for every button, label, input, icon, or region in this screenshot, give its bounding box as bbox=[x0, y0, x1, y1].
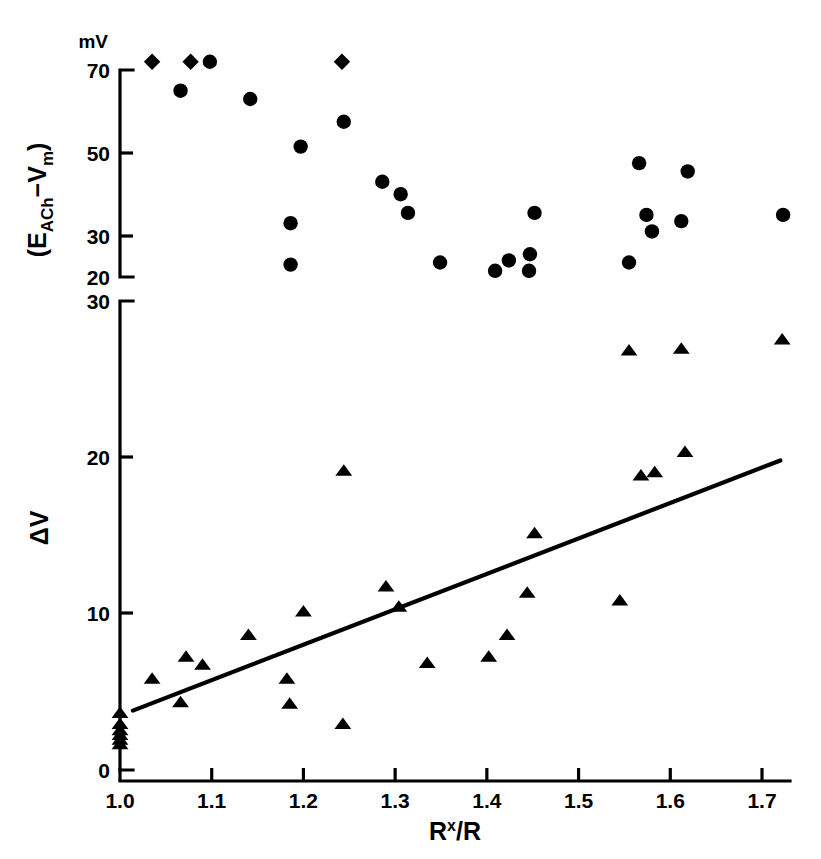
data-point-triangle bbox=[295, 605, 312, 617]
upper-y-title-sub2: m bbox=[38, 151, 57, 166]
upper-y-ticklabel-70: 70 bbox=[87, 59, 110, 82]
data-point-triangle bbox=[633, 469, 650, 481]
data-point-circle bbox=[375, 175, 389, 189]
data-point-triangle bbox=[774, 333, 791, 345]
data-point-circle bbox=[293, 139, 307, 153]
data-point-circle bbox=[283, 216, 297, 230]
x-axis-ticklabel-1.2: 1.2 bbox=[289, 789, 318, 812]
data-point-circle bbox=[337, 115, 351, 129]
data-point-circle bbox=[622, 255, 636, 269]
lower-y-ticklabel-10: 10 bbox=[87, 602, 110, 625]
data-point-circle bbox=[203, 55, 217, 69]
lower-y-ticklabel-30: 30 bbox=[87, 290, 110, 313]
x-axis-ticklabel-1.5: 1.5 bbox=[564, 789, 594, 812]
x-axis-ticklabel-1.3: 1.3 bbox=[381, 789, 410, 812]
upper-y-title-close: ) bbox=[23, 143, 51, 151]
upper-y-title-sub1: ACh bbox=[38, 197, 57, 232]
lower-y-axis-title: ΔV bbox=[25, 510, 53, 545]
lower-y-axis-spine bbox=[120, 301, 133, 770]
data-point-circle bbox=[523, 247, 537, 261]
upper-y-axis-title: (EACh−Vm) bbox=[23, 143, 57, 258]
data-point-triangle bbox=[499, 628, 516, 640]
upper-y-title-minus: −V bbox=[23, 166, 51, 198]
x-axis-ticklabels: 1.01.11.21.31.41.51.61.7 bbox=[105, 789, 776, 812]
lower-y-ticklabel-20: 20 bbox=[87, 446, 110, 469]
x-axis-title-sup: x bbox=[447, 817, 456, 834]
svg-text:(EACh−Vm): (EACh−Vm) bbox=[23, 143, 57, 258]
data-point-triangle bbox=[279, 672, 296, 684]
lower-panel: 30 20 10 0 ΔV 1.01.11.21.31.41.51.61.7 R… bbox=[25, 290, 791, 845]
data-point-diamond bbox=[144, 54, 160, 70]
data-point-triangle bbox=[519, 586, 536, 598]
data-point-triangle bbox=[178, 650, 195, 662]
x-axis-ticklabel-1.0: 1.0 bbox=[105, 789, 134, 812]
upper-y-unit-label: mV bbox=[78, 31, 108, 52]
data-point-triangle bbox=[335, 464, 352, 476]
data-point-circle bbox=[173, 84, 187, 98]
data-point-circle bbox=[401, 206, 415, 220]
data-point-triangle bbox=[677, 446, 694, 458]
data-point-triangle bbox=[621, 344, 638, 356]
x-axis-ticklabel-1.1: 1.1 bbox=[197, 789, 227, 812]
upper-y-axis-spine bbox=[120, 70, 133, 277]
data-point-triangle bbox=[378, 580, 395, 592]
x-axis-title-main: R bbox=[429, 817, 447, 845]
data-point-diamond bbox=[182, 54, 198, 70]
x-axis-ticks bbox=[120, 768, 762, 781]
upper-y-ticklabel-30: 30 bbox=[87, 225, 110, 248]
data-point-triangle bbox=[144, 672, 161, 684]
x-axis-ticklabel-1.7: 1.7 bbox=[747, 789, 776, 812]
data-point-triangle bbox=[334, 718, 351, 730]
data-point-triangle bbox=[673, 342, 690, 354]
x-axis-title: Rx/R bbox=[429, 817, 481, 845]
upper-y-ticklabel-50: 50 bbox=[87, 142, 110, 165]
data-point-triangle bbox=[611, 594, 628, 606]
data-point-circle bbox=[433, 255, 447, 269]
upper-y-ticklabel-20: 20 bbox=[87, 266, 110, 289]
data-point-diamond bbox=[334, 54, 350, 70]
data-point-triangle bbox=[172, 696, 189, 708]
data-point-triangle bbox=[281, 697, 298, 709]
upper-data-markers bbox=[144, 54, 790, 278]
data-point-circle bbox=[243, 92, 257, 106]
data-point-triangle bbox=[240, 628, 257, 640]
upper-panel: 70 50 30 20 mV (EACh−Vm) bbox=[23, 31, 790, 289]
data-point-circle bbox=[674, 214, 688, 228]
data-point-circle bbox=[488, 264, 502, 278]
x-axis-ticklabel-1.4: 1.4 bbox=[472, 789, 502, 812]
data-point-circle bbox=[522, 264, 536, 278]
data-point-circle bbox=[776, 208, 790, 222]
scatter-plot: 70 50 30 20 mV (EACh−Vm) 30 20 10 0 bbox=[0, 0, 821, 859]
data-point-circle bbox=[527, 206, 541, 220]
data-point-triangle bbox=[526, 527, 543, 539]
data-point-circle bbox=[632, 156, 646, 170]
data-point-circle bbox=[393, 187, 407, 201]
lower-data-markers bbox=[112, 333, 791, 749]
data-point-triangle bbox=[419, 657, 436, 669]
lower-y-ticklabel-0: 0 bbox=[98, 759, 110, 782]
data-point-triangle bbox=[112, 707, 129, 719]
data-point-circle bbox=[502, 253, 516, 267]
figure-container: 70 50 30 20 mV (EACh−Vm) 30 20 10 0 bbox=[0, 0, 821, 859]
data-point-circle bbox=[283, 257, 297, 271]
data-point-circle bbox=[681, 164, 695, 178]
data-point-triangle bbox=[646, 466, 663, 478]
regression-line bbox=[133, 460, 781, 710]
lower-y-axis-title-text: ΔV bbox=[25, 510, 53, 545]
data-point-circle bbox=[639, 208, 653, 222]
upper-y-title-open: (E bbox=[23, 232, 51, 257]
data-point-triangle bbox=[480, 650, 497, 662]
x-axis-title-rest: /R bbox=[456, 817, 481, 845]
data-point-circle bbox=[645, 224, 659, 238]
data-point-triangle bbox=[194, 658, 211, 670]
x-axis-ticklabel-1.6: 1.6 bbox=[656, 789, 685, 812]
